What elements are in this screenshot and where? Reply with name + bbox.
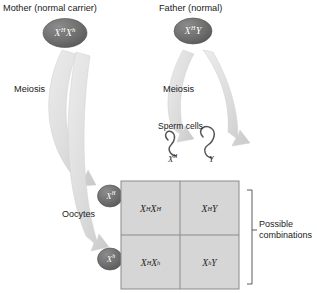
father-title: Father (normal) <box>159 3 222 13</box>
father-genotype-label: XHY <box>176 24 210 36</box>
sperm-cells-label: Sperm cells <box>158 122 203 132</box>
oocyte-genotype-XH: XH <box>100 190 122 201</box>
mother-genotype-label: XHXh <box>45 26 85 38</box>
possible-combinations-line1: Possible <box>259 219 312 230</box>
mother-meiosis-arrows <box>49 50 109 251</box>
meiosis-label-mother: Meiosis <box>14 84 45 94</box>
possible-combinations-label: Possible combinations <box>259 219 312 242</box>
sperm-gamete-label-XH: XH <box>168 153 177 164</box>
punnett-cell-r0c0: XHXH <box>121 181 180 235</box>
meiosis-label-father: Meiosis <box>163 84 194 94</box>
mother-title: Mother (normal carrier) <box>3 3 97 13</box>
sperm-gamete-label-Y: Y <box>209 155 214 164</box>
punnett-cell-r0c1: XHY <box>180 181 239 235</box>
oocyte-genotype-Xh: Xh <box>100 253 122 264</box>
genetics-diagram: Mother (normal carrier) Father (normal) … <box>0 0 317 293</box>
oocytes-label: Oocytes <box>62 209 95 219</box>
possible-combinations-bracket <box>247 190 257 284</box>
possible-combinations-line2: combinations <box>259 230 312 241</box>
punnett-cell-r1c1: XhY <box>180 235 239 289</box>
punnett-cell-r1c0: XHXh <box>121 235 180 289</box>
